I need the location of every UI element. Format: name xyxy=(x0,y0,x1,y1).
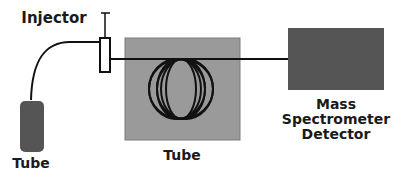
injector-label: Injector xyxy=(10,11,98,26)
injector-body xyxy=(100,38,110,72)
left-tube-label: Tube xyxy=(6,156,56,171)
detector-label-line1: Mass xyxy=(280,97,392,112)
detector-box xyxy=(288,28,384,90)
coil-box xyxy=(125,38,240,140)
center-tube-label: Tube xyxy=(157,148,207,163)
detector-label-line2: Spectrometer xyxy=(280,112,392,127)
detector-label-line3: Detector xyxy=(280,127,392,142)
detector-label: Mass Spectrometer Detector xyxy=(280,97,392,142)
left-tube xyxy=(20,101,44,152)
feed-line xyxy=(31,42,100,100)
